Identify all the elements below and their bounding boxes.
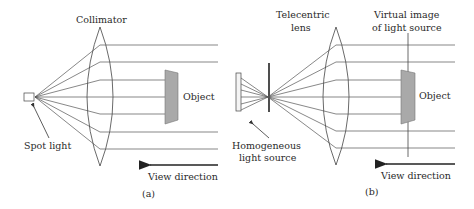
caption-b: (b) [365,186,379,197]
source-pointer-arrow [253,124,269,138]
telecentric-lens-label-2: lens [291,22,311,33]
source-rays-b [241,78,268,110]
object-label-b: Object [419,90,451,101]
homogeneous-light-source-icon [236,73,241,111]
telecentric-lens [323,27,349,165]
diverging-rays-b [268,45,336,148]
spot-light-icon [24,93,34,101]
caption-a: (a) [142,188,155,199]
virtual-image-label-1: Virtual image [373,9,440,20]
panel-b: Telecentric lens Virtual image of light … [232,9,455,197]
object-label-a: Object [183,91,215,102]
telecentric-illumination-diagram: Collimator Object Spot light View direct… [0,0,474,209]
object-b [401,70,415,124]
collimator-lens [87,27,113,166]
virtual-image-label-2: of light source [372,22,442,33]
view-direction-label-b: View direction [380,170,451,181]
collimator-label: Collimator [76,14,127,25]
homogeneous-source-label-2: light source [239,152,297,163]
telecentric-lens-label-1: Telecentric [276,9,330,20]
spot-light-label: Spot light [24,140,71,151]
panel-a: Collimator Object Spot light View direct… [24,14,218,199]
object-a [165,70,178,124]
view-direction-label-a: View direction [147,171,218,182]
spot-light-pointer-arrow [34,107,49,138]
homogeneous-source-label-1: Homogeneous [232,140,301,151]
